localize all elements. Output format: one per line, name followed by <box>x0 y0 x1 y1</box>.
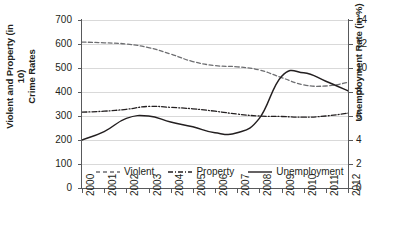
y-axis-left-tickmark <box>78 164 82 165</box>
y-axis-right-tick-label: 6 <box>356 111 386 121</box>
x-axis-tick-label: 2012 <box>352 174 362 196</box>
x-axis-tick-label: 2008 <box>263 174 273 196</box>
y-axis-left-tickmark <box>78 20 82 21</box>
x-axis-tick-label: 2003 <box>153 174 163 196</box>
series-lines <box>82 20 348 188</box>
x-axis-tick-label: 2005 <box>197 174 207 196</box>
y-axis-right-tickmark <box>349 140 353 141</box>
y-axis-left-tick-label: 300 <box>42 111 72 121</box>
x-axis-tickmark <box>282 189 283 193</box>
x-axis-tick-label: 2011 <box>330 174 340 196</box>
x-axis-tickmark <box>126 189 127 193</box>
y-axis-left-tickmark <box>78 116 82 117</box>
y-axis-left-tick-label: 200 <box>42 135 72 145</box>
y-axis-right-tickmark <box>349 164 353 165</box>
y-axis-right-tickmark <box>349 44 353 45</box>
x-axis-tickmark <box>104 189 105 193</box>
y-axis-right-tickmark <box>349 92 353 93</box>
y-axis-right-tick-label: 8 <box>356 87 386 97</box>
x-axis-tick-label: 2006 <box>219 174 229 196</box>
y-axis-right-tickmark <box>349 116 353 117</box>
series-line-unemployment <box>82 70 348 140</box>
y-axis-left-tick-label: 600 <box>42 39 72 49</box>
series-line-violent <box>82 42 348 86</box>
x-axis-tickmark <box>193 189 194 193</box>
x-axis-tick-label: 2004 <box>175 174 185 196</box>
y-axis-right-tick-label: 14 <box>356 15 386 25</box>
x-axis-tickmark <box>149 189 150 193</box>
y-axis-left-tickmark <box>78 44 82 45</box>
x-axis-tick-label: 2001 <box>108 174 118 196</box>
y-axis-left-tick-label: 400 <box>42 87 72 97</box>
x-axis-tick-label: 2000 <box>86 174 96 196</box>
x-axis-tickmark <box>326 189 327 193</box>
y-axis-left-tickmark <box>78 140 82 141</box>
y-axis-right-tickmark <box>349 68 353 69</box>
y-axis-left-tick-label: 700 <box>42 15 72 25</box>
y-axis-right-tick-label: 10 <box>356 63 386 73</box>
x-axis-tickmark <box>171 189 172 193</box>
y-axis-left-tickmark <box>78 92 82 93</box>
y-axis-right-tick-label: 4 <box>356 135 386 145</box>
crime-unemployment-line-chart: Violent and Property (in 10) Crime Rates… <box>0 0 408 239</box>
x-axis-tick-label: 2010 <box>308 174 318 196</box>
y-axis-right-tick-label: 2 <box>356 159 386 169</box>
y-axis-left-title: Violent and Property (in 10) Crime Rates <box>4 18 37 136</box>
x-axis-tickmark <box>237 189 238 193</box>
y-axis-left-tick-label: 100 <box>42 159 72 169</box>
x-axis-tickmark <box>82 189 83 193</box>
x-axis-tickmark <box>348 189 349 193</box>
legend-item-violent: Violent <box>96 167 154 177</box>
x-axis-tickmark <box>304 189 305 193</box>
x-axis-tick-label: 2009 <box>286 174 296 196</box>
x-axis-tickmark <box>215 189 216 193</box>
x-axis-tickmark <box>259 189 260 193</box>
y-axis-left-tick-label: 0 <box>42 183 72 193</box>
series-line-property <box>82 106 348 117</box>
x-axis-tick-label: 2007 <box>241 174 251 196</box>
y-axis-right-tick-label: 12 <box>356 39 386 49</box>
x-axis-tick-label: 2002 <box>130 174 140 196</box>
y-axis-left-tickmark <box>78 68 82 69</box>
y-axis-left-tick-label: 500 <box>42 63 72 73</box>
y-axis-right-tickmark <box>349 20 353 21</box>
